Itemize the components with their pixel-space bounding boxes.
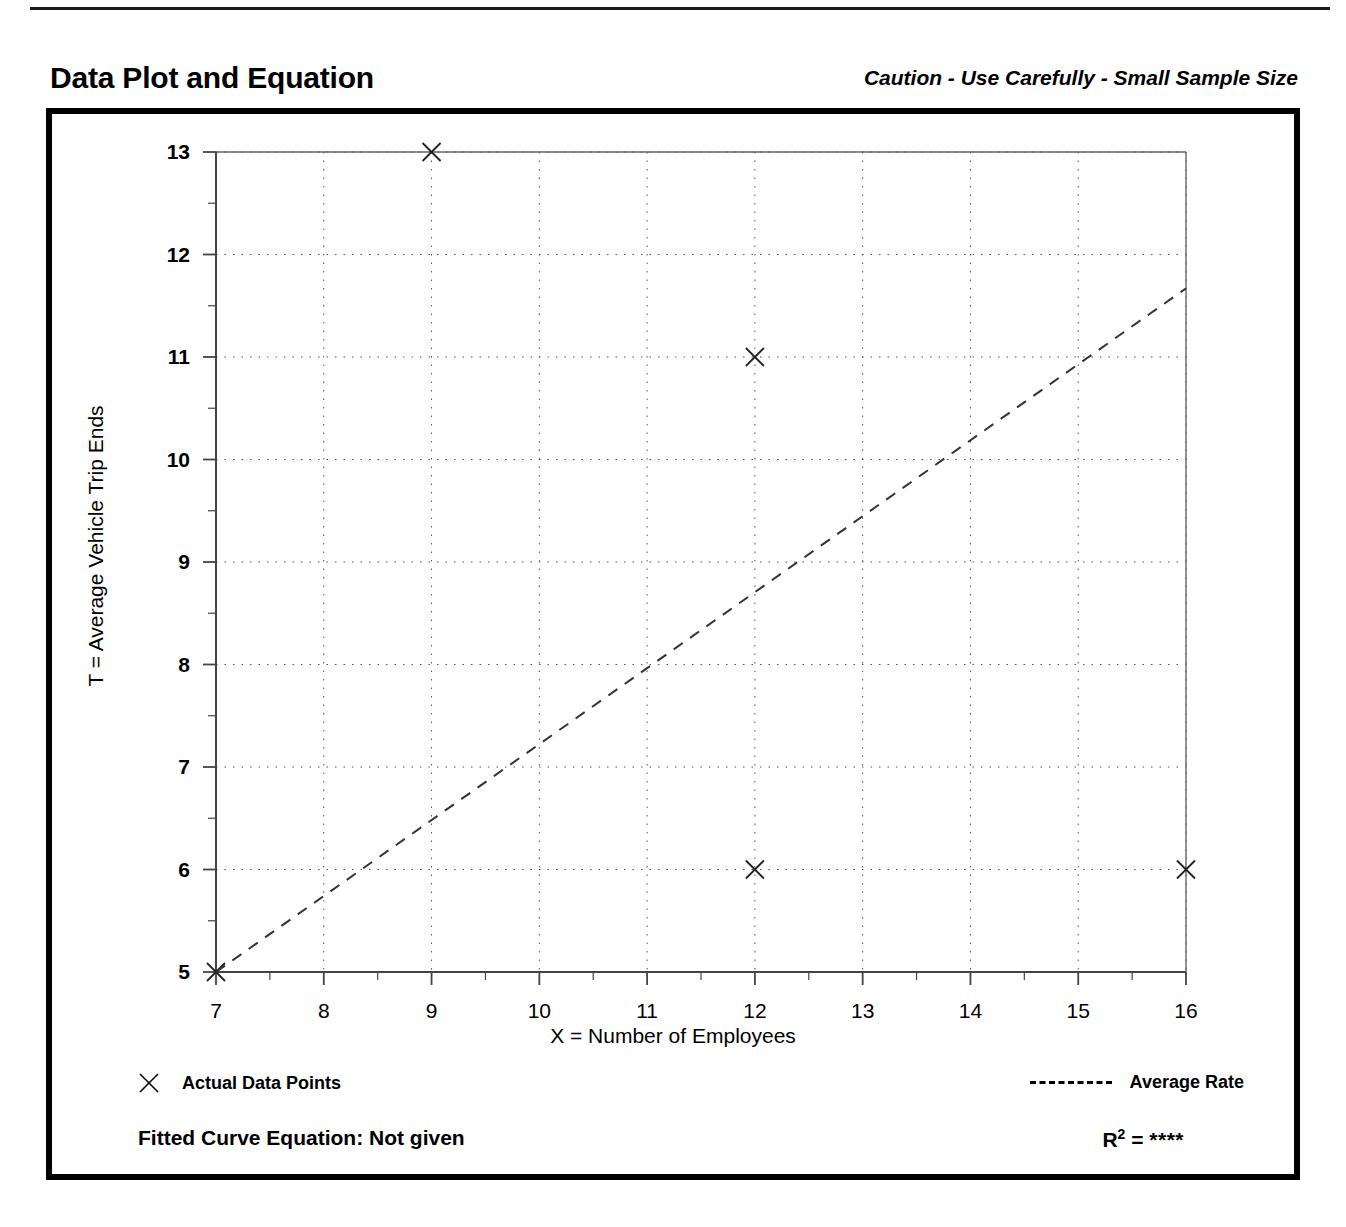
chart-panel: 789101112131415165678910111213 T = Avera…	[46, 108, 1300, 1180]
scatter-plot-svg: 789101112131415165678910111213	[52, 114, 1294, 1174]
caution-note: Caution - Use Carefully - Small Sample S…	[864, 66, 1298, 90]
x-tick-label: 7	[210, 999, 222, 1022]
y-tick-label: 5	[178, 960, 190, 983]
legend-item-data-points: Actual Data Points	[138, 1072, 341, 1094]
x-tick-label: 10	[528, 999, 551, 1022]
y-axis-title: T = Average Vehicle Trip Ends	[84, 296, 108, 796]
legend-label-data-points: Actual Data Points	[182, 1073, 341, 1094]
x-axis-title: X = Number of Employees	[52, 1024, 1294, 1048]
x-tick-label: 14	[959, 999, 983, 1022]
y-tick-label: 8	[178, 653, 190, 676]
x-tick-label: 11	[636, 999, 658, 1022]
dashed-line-icon	[1030, 1081, 1112, 1084]
page-root: Data Plot and Equation Caution - Use Car…	[0, 0, 1346, 1227]
header: Data Plot and Equation Caution - Use Car…	[50, 58, 1298, 98]
r-squared-letter: R	[1102, 1128, 1117, 1151]
x-tick-label: 12	[743, 999, 766, 1022]
r-squared-stars: ****	[1149, 1128, 1184, 1151]
x-tick-label: 15	[1067, 999, 1090, 1022]
y-tick-label: 6	[178, 858, 190, 881]
r-squared-equals: =	[1125, 1128, 1149, 1151]
x-tick-label: 9	[426, 999, 438, 1022]
x-tick-label: 13	[851, 999, 874, 1022]
legend-item-average-rate: Average Rate	[1030, 1072, 1244, 1093]
x-tick-label: 8	[318, 999, 330, 1022]
plot-area: 789101112131415165678910111213 T = Avera…	[52, 114, 1306, 1186]
legend-label-average-rate: Average Rate	[1130, 1072, 1244, 1093]
header-divider	[30, 7, 1330, 10]
x-marker-icon	[138, 1072, 160, 1094]
y-tick-label: 11	[168, 345, 191, 368]
y-tick-label: 10	[167, 448, 190, 471]
x-tick-label: 16	[1174, 999, 1197, 1022]
y-tick-label: 9	[178, 550, 190, 573]
y-tick-label: 7	[178, 755, 190, 778]
chart-legend: Actual Data Points Average Rate	[138, 1072, 1258, 1106]
y-tick-label: 13	[167, 140, 190, 163]
r-squared-value: R2 = ****	[1102, 1126, 1184, 1152]
page-title: Data Plot and Equation	[50, 61, 374, 95]
chart-footer: Fitted Curve Equation: Not given R2 = **…	[138, 1126, 1258, 1166]
fitted-curve-equation: Fitted Curve Equation: Not given	[138, 1126, 465, 1150]
y-tick-label: 12	[167, 243, 190, 266]
